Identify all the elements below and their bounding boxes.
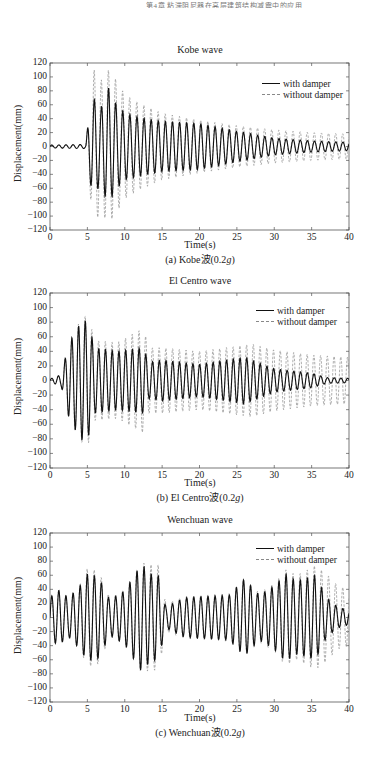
y-tick-label: −80 xyxy=(16,433,47,443)
x-tick-label: 25 xyxy=(227,232,247,242)
y-tick-label: 120 xyxy=(16,527,47,537)
y-tick-label: −80 xyxy=(16,668,47,678)
legend-item-with-damper: with damper xyxy=(256,543,337,554)
y-tick-label: 40 xyxy=(16,583,47,593)
y-tick-label: 80 xyxy=(16,316,47,326)
y-tick-label: 100 xyxy=(16,71,47,81)
x-tick-label: 0 xyxy=(40,704,60,714)
y-tick-label: −20 xyxy=(16,389,47,399)
x-tick-label: 0 xyxy=(40,232,60,242)
legend-item-without-damper: without damper xyxy=(256,554,337,565)
x-tick-label: 15 xyxy=(152,704,172,714)
y-tick-label: −20 xyxy=(16,626,47,636)
y-tick-label: 100 xyxy=(16,302,47,312)
y-tick-label: 120 xyxy=(16,57,47,67)
x-tick-label: 35 xyxy=(302,232,322,242)
y-tick-label: −40 xyxy=(16,168,47,178)
y-tick-label: −60 xyxy=(16,654,47,664)
y-tick-label: 60 xyxy=(16,569,47,579)
x-tick-label: 5 xyxy=(77,232,97,242)
x-tick-label: 20 xyxy=(190,704,210,714)
x-tick-label: 25 xyxy=(227,704,247,714)
y-tick-label: 20 xyxy=(16,127,47,137)
y-tick-label: 60 xyxy=(16,331,47,341)
x-tick-label: 15 xyxy=(152,232,172,242)
y-tick-label: 0 xyxy=(16,612,47,622)
y-tick-label: −40 xyxy=(16,404,47,414)
y-tick-label: 40 xyxy=(16,113,47,123)
y-tick-label: −40 xyxy=(16,640,47,650)
y-tick-label: −100 xyxy=(16,447,47,457)
y-tick-label: −60 xyxy=(16,418,47,428)
y-tick-label: 100 xyxy=(16,541,47,551)
x-tick-label: 40 xyxy=(339,232,359,242)
series-with-damper-line xyxy=(50,567,349,670)
chart-panel-wenchuan: Wenchuan wave Displacement(mm) Time(s) (… xyxy=(0,0,373,769)
x-tick-label: 35 xyxy=(302,704,322,714)
y-tick-label: 20 xyxy=(16,597,47,607)
y-tick-label: −20 xyxy=(16,154,47,164)
x-tick-label: 5 xyxy=(77,704,97,714)
x-tick-label: 0 xyxy=(40,470,60,480)
figure-caption: (c) Wenchuan波(0.2g) xyxy=(100,724,300,739)
x-tick-label: 40 xyxy=(339,470,359,480)
dashed-line-swatch-icon xyxy=(256,559,274,560)
x-tick-label: 10 xyxy=(115,704,135,714)
plot-area xyxy=(0,0,373,769)
y-tick-label: 0 xyxy=(16,141,47,151)
chart-legend: with damper without damper xyxy=(256,543,337,565)
y-tick-label: −100 xyxy=(16,682,47,692)
x-tick-label: 40 xyxy=(339,704,359,714)
y-tick-label: 40 xyxy=(16,345,47,355)
x-tick-label: 20 xyxy=(190,232,210,242)
y-tick-label: 20 xyxy=(16,360,47,370)
y-tick-label: −60 xyxy=(16,182,47,192)
y-tick-label: 0 xyxy=(16,375,47,385)
x-tick-label: 25 xyxy=(227,470,247,480)
x-tick-label: 30 xyxy=(264,704,284,714)
x-tick-label: 15 xyxy=(152,470,172,480)
x-tick-label: 35 xyxy=(302,470,322,480)
x-tick-label: 10 xyxy=(115,232,135,242)
x-tick-label: 5 xyxy=(77,470,97,480)
x-tick-label: 20 xyxy=(190,470,210,480)
y-tick-label: 120 xyxy=(16,287,47,297)
y-tick-label: −100 xyxy=(16,210,47,220)
solid-line-swatch-icon xyxy=(256,548,274,549)
y-tick-label: −80 xyxy=(16,196,47,206)
x-tick-label: 30 xyxy=(264,232,284,242)
y-tick-label: 60 xyxy=(16,99,47,109)
x-tick-label: 30 xyxy=(264,470,284,480)
y-tick-label: 80 xyxy=(16,555,47,565)
y-tick-label: 80 xyxy=(16,85,47,95)
x-tick-label: 10 xyxy=(115,470,135,480)
